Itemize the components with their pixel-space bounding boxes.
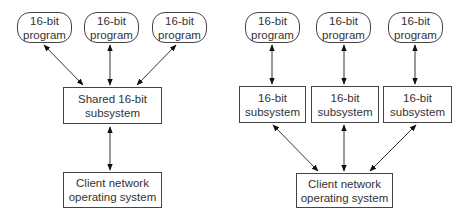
- label: 16-bit: [258, 91, 287, 105]
- label: 16-bit: [165, 14, 194, 28]
- left-program-2: 16-bit program: [84, 12, 139, 43]
- label: program: [322, 28, 365, 42]
- arrow-program3-shared: [137, 45, 176, 85]
- label: Shared 16-bit: [78, 92, 147, 106]
- left-client-network-os: Client network operating system: [63, 172, 162, 208]
- label: program: [251, 28, 294, 42]
- label: subsystem: [318, 105, 373, 119]
- label: program: [23, 28, 66, 42]
- label: 16-bit: [329, 14, 358, 28]
- label: program: [158, 28, 201, 42]
- right-subsystem-1: 16-bit subsystem: [239, 86, 306, 123]
- right-subsystem-2: 16-bit subsystem: [311, 86, 379, 123]
- label: program: [394, 28, 437, 42]
- label: operating system: [301, 191, 389, 205]
- left-program-3: 16-bit program: [152, 12, 207, 43]
- right-program-2: 16-bit program: [316, 12, 371, 43]
- label: 16-bit: [401, 14, 430, 28]
- label: subsystem: [390, 105, 445, 119]
- right-subsystem-3: 16-bit subsystem: [383, 86, 452, 123]
- label: 16-bit: [97, 14, 126, 28]
- right-program-1: 16-bit program: [245, 12, 300, 43]
- right-client-network-os: Client network operating system: [296, 173, 393, 208]
- arrow-subsystem1-client: [273, 125, 318, 171]
- label: Client network: [308, 177, 381, 191]
- label: subsystem: [245, 105, 300, 119]
- label: 16-bit: [403, 91, 432, 105]
- label: program: [90, 28, 133, 42]
- label: subsystem: [85, 106, 140, 120]
- shared-16bit-subsystem: Shared 16-bit subsystem: [63, 87, 162, 124]
- label: 16-bit: [258, 14, 287, 28]
- label: operating system: [69, 190, 157, 204]
- arrow-subsystem3-client: [370, 125, 416, 171]
- arrow-program1-shared: [44, 45, 83, 85]
- left-program-1: 16-bit program: [17, 12, 72, 43]
- label: Client network: [76, 176, 149, 190]
- label: 16-bit: [30, 14, 59, 28]
- right-program-3: 16-bit program: [388, 12, 443, 43]
- label: 16-bit: [331, 91, 360, 105]
